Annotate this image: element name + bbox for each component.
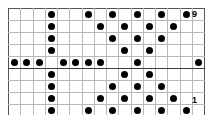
pattern-cell-empty[interactable] xyxy=(94,45,106,57)
pattern-cell-empty[interactable] xyxy=(192,105,204,116)
pattern-cell-empty[interactable] xyxy=(180,45,192,57)
pattern-cell-marked[interactable] xyxy=(45,9,57,21)
pattern-cell-empty[interactable] xyxy=(21,45,33,57)
pattern-cell-empty[interactable] xyxy=(156,69,168,81)
pattern-cell-empty[interactable] xyxy=(180,93,192,105)
pattern-cell-empty[interactable] xyxy=(168,45,180,57)
pattern-cell-empty[interactable] xyxy=(33,69,45,81)
pattern-cell-empty[interactable] xyxy=(192,21,204,33)
pattern-cell-empty[interactable] xyxy=(156,93,168,105)
pattern-cell-empty[interactable] xyxy=(9,21,21,33)
pattern-cell-empty[interactable] xyxy=(70,69,82,81)
pattern-cell-empty[interactable] xyxy=(180,81,192,93)
pattern-cell-empty[interactable] xyxy=(21,105,33,116)
pattern-cell-marked[interactable] xyxy=(143,21,155,33)
pattern-cell-empty[interactable] xyxy=(94,81,106,93)
pattern-cell-marked[interactable] xyxy=(45,45,57,57)
pattern-cell-marked[interactable] xyxy=(168,21,180,33)
pattern-cell-empty[interactable] xyxy=(168,105,180,116)
pattern-cell-empty[interactable] xyxy=(192,33,204,45)
pattern-cell-empty[interactable] xyxy=(94,105,106,116)
pattern-cell-empty[interactable] xyxy=(180,33,192,45)
pattern-cell-empty[interactable] xyxy=(58,45,70,57)
pattern-cell-empty[interactable] xyxy=(119,33,131,45)
pattern-cell-marked[interactable] xyxy=(131,81,143,93)
pattern-cell-empty[interactable] xyxy=(82,81,94,93)
pattern-cell-empty[interactable] xyxy=(119,9,131,21)
pattern-cell-empty[interactable] xyxy=(58,93,70,105)
pattern-cell-empty[interactable] xyxy=(168,57,180,69)
pattern-cell-empty[interactable] xyxy=(168,33,180,45)
pattern-cell-marked[interactable] xyxy=(119,93,131,105)
pattern-cell-empty[interactable] xyxy=(70,105,82,116)
pattern-cell-marked[interactable] xyxy=(119,45,131,57)
pattern-cell-empty[interactable] xyxy=(33,9,45,21)
pattern-cell-empty[interactable] xyxy=(131,21,143,33)
pattern-cell-marked[interactable] xyxy=(45,81,57,93)
pattern-cell-empty[interactable] xyxy=(156,45,168,57)
pattern-cell-empty[interactable] xyxy=(9,93,21,105)
pattern-cell-empty[interactable] xyxy=(107,21,119,33)
pattern-cell-marked[interactable] xyxy=(107,33,119,45)
pattern-cell-empty[interactable] xyxy=(180,21,192,33)
pattern-cell-empty[interactable] xyxy=(33,105,45,116)
pattern-cell-empty[interactable] xyxy=(119,81,131,93)
pattern-cell-marked[interactable] xyxy=(70,57,82,69)
pattern-cell-marked[interactable] xyxy=(156,81,168,93)
pattern-cell-empty[interactable] xyxy=(45,57,57,69)
pattern-cell-empty[interactable] xyxy=(9,69,21,81)
pattern-cell-empty[interactable] xyxy=(82,45,94,57)
pattern-cell-empty[interactable] xyxy=(70,93,82,105)
pattern-cell-empty[interactable] xyxy=(168,69,180,81)
pattern-cell-empty[interactable] xyxy=(9,81,21,93)
pattern-cell-marked[interactable] xyxy=(156,105,168,116)
pattern-cell-empty[interactable] xyxy=(82,69,94,81)
pattern-cell-empty[interactable] xyxy=(156,21,168,33)
pattern-cell-empty[interactable] xyxy=(131,69,143,81)
pattern-cell-marked[interactable] xyxy=(131,33,143,45)
pattern-cell-empty[interactable] xyxy=(21,33,33,45)
pattern-cell-marked[interactable] xyxy=(82,105,94,116)
pattern-cell-marked[interactable] xyxy=(119,21,131,33)
pattern-cell-empty[interactable] xyxy=(58,81,70,93)
pattern-cell-empty[interactable] xyxy=(107,57,119,69)
pattern-cell-marked[interactable] xyxy=(156,9,168,21)
pattern-cell-empty[interactable] xyxy=(192,69,204,81)
pattern-cell-marked[interactable] xyxy=(131,105,143,116)
pattern-cell-empty[interactable] xyxy=(180,57,192,69)
pattern-cell-marked[interactable] xyxy=(119,69,131,81)
pattern-cell-empty[interactable] xyxy=(58,105,70,116)
pattern-cell-empty[interactable] xyxy=(107,69,119,81)
pattern-cell-empty[interactable] xyxy=(33,21,45,33)
pattern-cell-empty[interactable] xyxy=(70,9,82,21)
pattern-cell-marked[interactable] xyxy=(94,93,106,105)
pattern-cell-empty[interactable] xyxy=(143,57,155,69)
pattern-cell-empty[interactable] xyxy=(107,45,119,57)
pattern-cell-marked[interactable] xyxy=(107,105,119,116)
pattern-cell-marked[interactable] xyxy=(94,21,106,33)
pattern-cell-empty[interactable] xyxy=(21,69,33,81)
pattern-cell-empty[interactable] xyxy=(9,9,21,21)
pattern-cell-empty[interactable] xyxy=(21,81,33,93)
pattern-cell-empty[interactable] xyxy=(82,93,94,105)
pattern-cell-marked[interactable] xyxy=(45,33,57,45)
pattern-cell-empty[interactable] xyxy=(21,9,33,21)
pattern-cell-marked[interactable] xyxy=(45,105,57,116)
pattern-cell-marked[interactable] xyxy=(58,57,70,69)
pattern-cell-marked[interactable] xyxy=(82,57,94,69)
pattern-cell-marked[interactable] xyxy=(82,9,94,21)
pattern-cell-marked[interactable] xyxy=(45,21,57,33)
pattern-cell-marked[interactable] xyxy=(131,57,143,69)
pattern-cell-empty[interactable] xyxy=(33,93,45,105)
pattern-cell-marked[interactable] xyxy=(21,57,33,69)
pattern-cell-empty[interactable] xyxy=(33,81,45,93)
pattern-cell-empty[interactable] xyxy=(58,21,70,33)
pattern-cell-marked[interactable] xyxy=(45,69,57,81)
pattern-cell-marked[interactable] xyxy=(94,57,106,69)
pattern-cell-empty[interactable] xyxy=(168,81,180,93)
pattern-cell-empty[interactable] xyxy=(9,33,21,45)
pattern-cell-empty[interactable] xyxy=(131,45,143,57)
pattern-cell-empty[interactable] xyxy=(168,9,180,21)
pattern-cell-empty[interactable] xyxy=(9,105,21,116)
pattern-cell-empty[interactable] xyxy=(82,33,94,45)
